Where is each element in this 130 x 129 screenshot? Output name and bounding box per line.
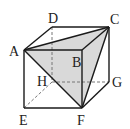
- label-f: F: [77, 113, 85, 128]
- label-c: C: [110, 12, 119, 27]
- label-b: B: [72, 55, 81, 70]
- cube-diagram: A B C D E F G H: [0, 0, 130, 129]
- label-g: G: [112, 75, 122, 90]
- label-d: D: [48, 11, 58, 26]
- label-a: A: [9, 44, 20, 59]
- label-h: H: [37, 74, 47, 89]
- label-e: E: [19, 113, 28, 128]
